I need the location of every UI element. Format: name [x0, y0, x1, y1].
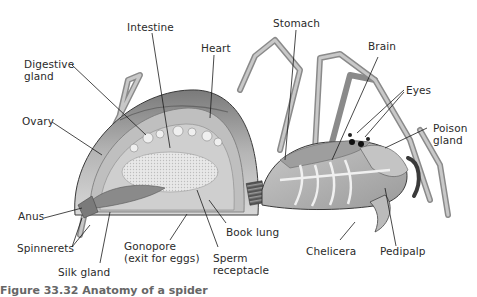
- figure-caption: Figure 33.32 Anatomy of a spider: [0, 284, 208, 297]
- label-book-lung: Book lung: [226, 226, 279, 238]
- eye-3: [348, 133, 352, 137]
- label-anus: Anus: [18, 210, 44, 222]
- eye-1: [349, 139, 355, 145]
- label-brain: Brain: [368, 40, 396, 52]
- label-heart: Heart: [201, 42, 231, 54]
- eye-2: [358, 141, 364, 147]
- label-sperm-receptacle: Sperm receptacle: [213, 252, 269, 276]
- label-ovary: Ovary: [22, 115, 54, 127]
- cephalothorax: [262, 133, 419, 232]
- label-pedipalp: Pedipalp: [380, 245, 425, 257]
- label-intestine: Intestine: [127, 21, 174, 33]
- label-stomach: Stomach: [273, 17, 320, 29]
- label-eyes: Eyes: [406, 84, 431, 96]
- abdomen: [75, 90, 259, 218]
- label-spinnerets: Spinnerets: [17, 242, 74, 254]
- eye-4: [366, 137, 370, 141]
- label-poison-gland: Poison gland: [433, 122, 467, 146]
- label-chelicera: Chelicera: [306, 245, 356, 257]
- label-silk-gland: Silk gland: [58, 266, 110, 278]
- label-digestive-gland: Digestive gland: [24, 58, 74, 82]
- label-gonopore: Gonopore (exit for eggs): [124, 240, 200, 264]
